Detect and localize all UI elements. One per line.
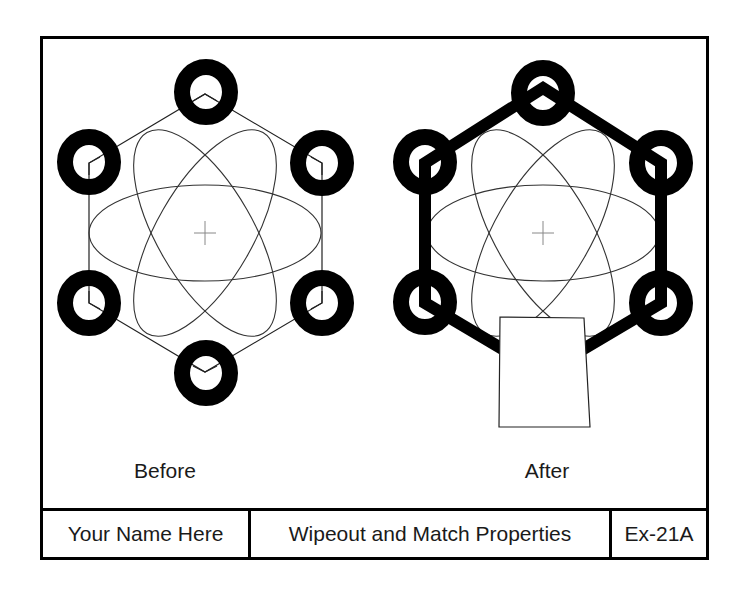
title-block-name: Your Name Here [43, 511, 248, 557]
ring-icon [182, 348, 230, 398]
title-block-title: Wipeout and Match Properties [251, 511, 609, 557]
ring-icon [182, 67, 230, 117]
ring-icon [65, 137, 113, 187]
before-atom-ellipses [89, 109, 321, 358]
title-block-number: Ex-21A [612, 511, 706, 557]
after-figure [401, 68, 685, 427]
after-caption: After [497, 459, 597, 483]
wipeout-frame[interactable] [499, 317, 590, 427]
before-caption: Before [100, 459, 230, 483]
drawing-sheet [0, 0, 740, 594]
after-rings [401, 68, 685, 328]
before-figure [65, 67, 346, 398]
